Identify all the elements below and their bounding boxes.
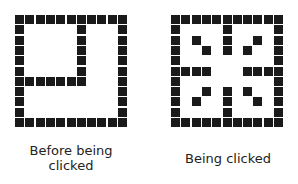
pixel-cell bbox=[223, 46, 232, 55]
pixel-cell bbox=[202, 67, 211, 76]
pixel-cell bbox=[97, 15, 106, 24]
pixel-cell bbox=[171, 118, 180, 127]
pixel-cell bbox=[202, 118, 211, 127]
pixel-cell bbox=[118, 67, 127, 76]
pixel-cell bbox=[243, 118, 252, 127]
pixel-cell bbox=[181, 118, 190, 127]
pixel-cell bbox=[56, 15, 65, 24]
pixel-cell bbox=[108, 118, 117, 127]
pixel-cell bbox=[25, 118, 34, 127]
pixel-cell bbox=[15, 118, 24, 127]
pixel-cell bbox=[77, 36, 86, 45]
pixel-cell bbox=[15, 67, 24, 76]
pixel-cell bbox=[171, 56, 180, 65]
pixel-cell bbox=[223, 15, 232, 24]
pixel-cell bbox=[77, 56, 86, 65]
pixel-cell bbox=[192, 36, 201, 45]
pixel-cell bbox=[15, 46, 24, 55]
pixel-cell bbox=[77, 15, 86, 24]
pixel-cell bbox=[274, 67, 283, 76]
pixel-cell bbox=[212, 15, 221, 24]
pixel-cell bbox=[233, 15, 242, 24]
pixel-cell bbox=[243, 87, 252, 96]
pixel-cell bbox=[118, 25, 127, 34]
pixel-cell bbox=[223, 25, 232, 34]
pixel-cell bbox=[274, 25, 283, 34]
pixel-cell bbox=[77, 67, 86, 76]
pixel-cell bbox=[56, 77, 65, 86]
pixel-cell bbox=[274, 87, 283, 96]
pixel-cell bbox=[118, 36, 127, 45]
pixel-cell bbox=[108, 15, 117, 24]
before-click-caption: Before being clicked bbox=[18, 143, 124, 173]
pixel-cell bbox=[46, 118, 55, 127]
pixel-cell bbox=[15, 87, 24, 96]
pixel-cell bbox=[118, 108, 127, 117]
pixel-cell bbox=[25, 15, 34, 24]
pixel-cell bbox=[87, 15, 96, 24]
pixel-cell bbox=[223, 97, 232, 106]
pixel-cell bbox=[223, 108, 232, 117]
button-being-clicked-icon bbox=[171, 15, 283, 127]
pixel-cell bbox=[264, 15, 273, 24]
pixel-cell bbox=[171, 108, 180, 117]
pixel-cell bbox=[264, 67, 273, 76]
pixel-cell bbox=[87, 118, 96, 127]
pixel-cell bbox=[171, 77, 180, 86]
pixel-cell bbox=[36, 77, 45, 86]
pixel-cell bbox=[274, 108, 283, 117]
pixel-cell bbox=[253, 97, 262, 106]
pixel-cell bbox=[118, 46, 127, 55]
pixel-cell bbox=[77, 77, 86, 86]
pixel-cell bbox=[77, 25, 86, 34]
pixel-cell bbox=[67, 15, 76, 24]
pixel-cell bbox=[171, 97, 180, 106]
pixel-cell bbox=[97, 118, 106, 127]
pixel-cell bbox=[36, 118, 45, 127]
pixel-cell bbox=[118, 56, 127, 65]
pixel-cell bbox=[171, 15, 180, 24]
pixel-cell bbox=[192, 15, 201, 24]
pixel-cell bbox=[192, 67, 201, 76]
pixel-cell bbox=[243, 15, 252, 24]
pixel-cell bbox=[192, 97, 201, 106]
pixel-cell bbox=[253, 118, 262, 127]
pixel-cell bbox=[233, 118, 242, 127]
pixel-cell bbox=[202, 87, 211, 96]
pixel-cell bbox=[274, 77, 283, 86]
pixel-cell bbox=[15, 56, 24, 65]
pixel-cell bbox=[274, 56, 283, 65]
pixel-cell bbox=[243, 46, 252, 55]
being-clicked-caption-text: Being clicked bbox=[172, 151, 284, 166]
pixel-cell bbox=[15, 36, 24, 45]
pixel-cell bbox=[274, 97, 283, 106]
pixel-cell bbox=[118, 15, 127, 24]
pixel-cell bbox=[212, 118, 221, 127]
pixel-cell bbox=[77, 46, 86, 55]
pixel-cell bbox=[274, 36, 283, 45]
pixel-cell bbox=[181, 67, 190, 76]
pixel-cell bbox=[118, 97, 127, 106]
pixel-cell bbox=[181, 15, 190, 24]
pixel-cell bbox=[223, 87, 232, 96]
pixel-cell bbox=[36, 15, 45, 24]
pixel-cell bbox=[274, 118, 283, 127]
pixel-cell bbox=[264, 118, 273, 127]
pixel-cell bbox=[253, 36, 262, 45]
pixel-cell bbox=[118, 118, 127, 127]
pixel-cell bbox=[274, 15, 283, 24]
pixel-cell bbox=[25, 77, 34, 86]
pixel-cell bbox=[67, 77, 76, 86]
pixel-cell bbox=[46, 77, 55, 86]
pixel-cell bbox=[118, 77, 127, 86]
pixel-cell bbox=[274, 46, 283, 55]
before-click-caption-line1: Before being bbox=[18, 143, 124, 158]
pixel-cell bbox=[67, 118, 76, 127]
pixel-cell bbox=[253, 67, 262, 76]
button-before-click-icon bbox=[15, 15, 127, 127]
pixel-cell bbox=[56, 118, 65, 127]
pixel-cell bbox=[46, 15, 55, 24]
pixel-cell bbox=[171, 46, 180, 55]
pixel-cell bbox=[202, 46, 211, 55]
pixel-cell bbox=[223, 118, 232, 127]
